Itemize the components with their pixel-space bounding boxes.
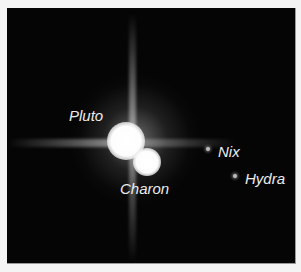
charon-label: Charon	[120, 181, 169, 196]
charon-disc	[133, 148, 161, 176]
space-image-frame: Pluto Charon Nix Hydra	[7, 8, 296, 264]
nix-dot	[206, 147, 210, 151]
hydra-dot	[233, 174, 237, 178]
hydra-label: Hydra	[245, 171, 285, 186]
nix-label: Nix	[218, 144, 240, 159]
pluto-label: Pluto	[69, 108, 103, 123]
